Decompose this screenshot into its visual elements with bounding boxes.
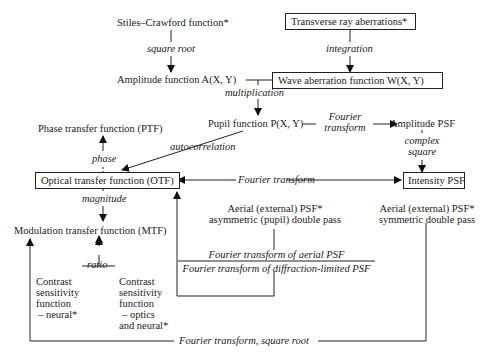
node-wave-aberration-function: Wave aberration function W(X, Y) bbox=[272, 72, 443, 89]
node-optical-transfer-function: Optical transfer function (OTF) bbox=[35, 172, 180, 189]
edge-integration: integration bbox=[326, 43, 373, 55]
fraction-numerator: Fourier transform of aerial PSF bbox=[178, 249, 375, 261]
edge-fourier-transform: Fourier transform bbox=[238, 174, 315, 186]
fraction-denominator: Fourier transform of diffraction-limited… bbox=[178, 263, 375, 275]
edge-fourier-label-2: transform bbox=[318, 122, 372, 134]
edge-fourier-transform-square-root: Fourier transform, square root bbox=[179, 335, 309, 347]
node-aerial-sym-line2: symmetric double pass bbox=[370, 214, 484, 226]
edge-ratio: ratio bbox=[87, 259, 107, 271]
node-csf-optics-l5: and neural* bbox=[119, 320, 168, 332]
node-intensity-psf: Intensity PSF bbox=[403, 172, 465, 189]
edge-complex-label-2: square bbox=[397, 146, 447, 158]
node-aerial-asym-line2: asymmetric (pupil) double pass bbox=[195, 214, 355, 226]
edge-multiplication: multiplication bbox=[225, 87, 284, 99]
edge-square-root: square root bbox=[147, 43, 195, 55]
edge-magnitude: magnitude bbox=[82, 193, 126, 205]
edge-phase: phase bbox=[92, 153, 117, 165]
node-modulation-transfer-function: Modulation transfer function (MTF) bbox=[14, 225, 167, 237]
node-stiles-crawford: Stiles–Crawford function* bbox=[117, 17, 229, 29]
node-transverse-ray-aberrations: Transverse ray aberrations* bbox=[285, 13, 416, 30]
node-csf-neural-l4: – neural* bbox=[38, 309, 77, 321]
node-amplitude-psf: Amplitude PSF bbox=[390, 118, 455, 130]
node-phase-transfer-function: Phase transfer function (PTF) bbox=[38, 123, 163, 135]
node-amplitude-function: Amplitude function A(X, Y) bbox=[117, 74, 236, 86]
node-pupil-function: Pupil function P(X, Y) bbox=[208, 118, 303, 130]
edge-autocorrelation: autocorrelation bbox=[170, 141, 236, 153]
